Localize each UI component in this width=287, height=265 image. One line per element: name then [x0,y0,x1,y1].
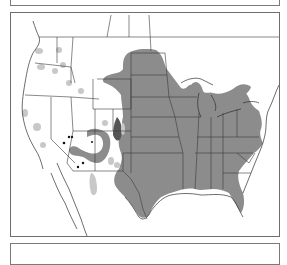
patch-utah-colorado [102,120,108,126]
point-record [82,162,84,164]
next-panel-edge [10,243,280,265]
southwest-arc [69,117,122,163]
patch-montana-1 [78,88,84,94]
previous-panel-edge [10,0,280,6]
point-record [63,142,66,145]
arizona-newmexico-arc [69,129,110,163]
primary-range-shape [103,49,263,218]
border-nv-ut [71,97,95,131]
patch-oregon-2 [52,68,58,74]
patch-idaho-1 [60,62,66,68]
border-id-mt [71,37,75,83]
patch-california-1 [33,123,41,131]
primary-range [103,49,263,218]
patch-colorado-front [121,123,125,135]
patch-sonora [90,173,98,195]
baja-peninsula [51,173,77,229]
baja-coast [57,163,87,236]
patch-newmexico-2 [114,162,120,168]
patch-newmexico-1 [108,157,114,165]
range-map [11,13,279,236]
province-border-bc-ab [107,15,111,37]
point-record [77,166,79,168]
patch-california-2 [40,142,46,148]
border-or-ca-nv [25,95,99,99]
point-record [68,136,70,138]
peripheral-patches [22,47,125,195]
ontario-range [232,84,251,97]
province-border-sk-mb [149,15,151,51]
point-record [91,141,93,143]
patch-oregon-1 [37,64,45,70]
dense-cluster-colorado [113,117,122,141]
range-map-frame [10,12,280,237]
